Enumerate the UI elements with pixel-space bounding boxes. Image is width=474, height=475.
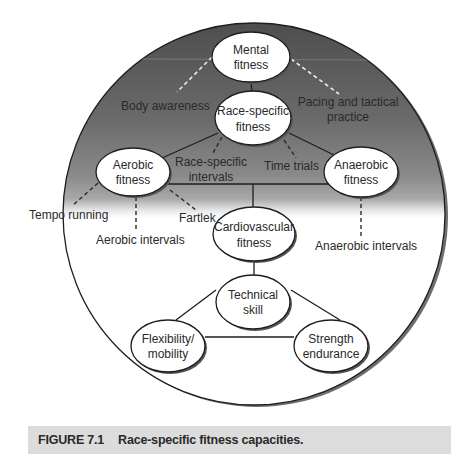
label-aerobic-intervals: Aerobic intervals	[96, 233, 185, 247]
svg-text:mobility: mobility	[148, 347, 189, 361]
svg-text:Flexibility/: Flexibility/	[142, 332, 195, 346]
label-pacing-line2: practice	[327, 110, 369, 124]
label-tempo-running: Tempo running	[29, 208, 108, 222]
svg-text:fitness: fitness	[236, 120, 271, 134]
label-time-trials: Time trials	[264, 159, 319, 173]
svg-text:Strength: Strength	[308, 332, 353, 346]
svg-text:Technical: Technical	[228, 288, 278, 302]
label-fartlek: Fartlek	[179, 211, 217, 225]
caption-text: Race-specific fitness capacities.	[118, 433, 303, 447]
svg-text:fitness: fitness	[237, 236, 272, 250]
svg-text:fitness: fitness	[234, 58, 269, 72]
label-pacing-line1: Pacing and tactical	[298, 95, 399, 109]
svg-text:skill: skill	[243, 303, 263, 317]
svg-text:Anaerobic: Anaerobic	[334, 158, 388, 172]
label-body-awareness: Body awareness	[121, 99, 210, 113]
svg-text:Race-specific: Race-specific	[217, 104, 289, 118]
svg-text:fitness: fitness	[116, 173, 151, 187]
label-race-intervals-line1: Race-specific	[175, 155, 247, 169]
caption-label: FIGURE 7.1	[38, 433, 104, 447]
figure-caption: FIGURE 7.1 Race-specific fitness capacit…	[28, 426, 451, 454]
race-specific-fitness-diagram: Mental fitness Race-specific fitness Aer…	[0, 0, 474, 420]
label-race-intervals-line2: intervals	[189, 170, 234, 184]
svg-text:Cardiovascular: Cardiovascular	[214, 220, 294, 234]
svg-text:endurance: endurance	[303, 347, 360, 361]
label-anaerobic-intervals: Anaerobic intervals	[315, 239, 417, 253]
svg-text:fitness: fitness	[344, 173, 379, 187]
svg-text:Aerobic: Aerobic	[113, 158, 154, 172]
svg-text:Mental: Mental	[233, 43, 269, 57]
